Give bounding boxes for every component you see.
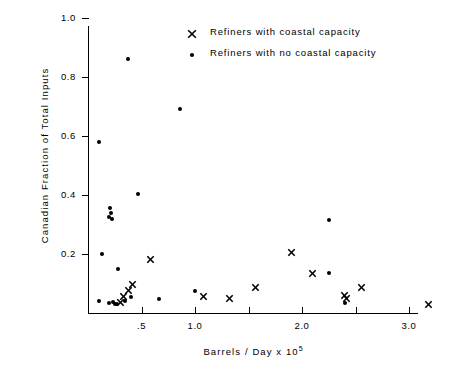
data-point-s1-14 xyxy=(115,302,119,306)
data-point-s0-7 xyxy=(251,283,260,292)
data-point-s1-9 xyxy=(116,267,120,271)
data-point-s1-5 xyxy=(109,211,113,215)
x-tick-label-2: 2.0 xyxy=(294,320,309,331)
data-point-s1-8 xyxy=(100,252,104,256)
y-tick-0 xyxy=(82,254,89,255)
y-tick-2 xyxy=(82,136,89,137)
x-tick-minor-1 xyxy=(356,307,357,314)
y-tick-4 xyxy=(82,18,89,19)
data-point-s1-17 xyxy=(157,297,161,301)
x-tick-label-1: 1.0 xyxy=(187,320,202,331)
y-axis-line xyxy=(88,26,89,314)
data-point-s1-20 xyxy=(327,271,331,275)
y-axis-title: Canadian Fraction of Total Inputs xyxy=(39,26,50,286)
legend-label-no-coastal: Refiners with no coastal capacity xyxy=(210,47,376,58)
x-marker-icon xyxy=(186,26,198,38)
data-point-s1-0 xyxy=(97,140,101,144)
data-point-s1-4 xyxy=(108,206,112,210)
data-point-s0-3 xyxy=(128,280,137,289)
y-tick-label-0: 0.2 xyxy=(30,248,76,259)
data-point-s0-6 xyxy=(225,294,234,303)
data-point-s1-7 xyxy=(110,217,114,221)
y-tick-label-3: 0.8 xyxy=(30,71,76,82)
dot-marker-icon xyxy=(186,47,198,59)
x-axis-line xyxy=(88,313,418,314)
x-tick-label-3: 3.0 xyxy=(401,320,416,331)
legend-label-coastal: Refiners with coastal capacity xyxy=(210,26,361,37)
data-point-s0-12 xyxy=(357,283,366,292)
y-tick-label-4: 1.0 xyxy=(30,12,76,23)
y-tick-1 xyxy=(82,195,89,196)
y-tick-3 xyxy=(82,77,89,78)
x-axis-title-text: Barrels / Day x 10 xyxy=(203,346,298,357)
data-point-s0-8 xyxy=(287,248,296,257)
x-axis-title: Barrels / Day x 105 xyxy=(88,345,418,357)
data-point-s0-4 xyxy=(146,255,155,264)
x-tick-label-0: .5 xyxy=(137,320,146,331)
y-tick-label-2: 0.6 xyxy=(30,130,76,141)
x-tick-2 xyxy=(302,307,303,314)
x-tick-3 xyxy=(409,307,410,314)
y-tick-label-1: 0.4 xyxy=(30,189,76,200)
data-point-s1-1 xyxy=(126,57,130,61)
data-point-s0-5 xyxy=(199,292,208,301)
x-axis-title-exponent: 5 xyxy=(299,345,303,352)
data-point-s1-19 xyxy=(327,218,331,222)
scatter-plot-figure: Canadian Fraction of Total Inputs Barrel… xyxy=(0,0,468,376)
data-point-s1-21 xyxy=(343,301,347,305)
data-point-s1-18 xyxy=(193,289,197,293)
data-point-s0-13 xyxy=(424,300,433,309)
data-point-s1-3 xyxy=(136,192,140,196)
data-point-s1-15 xyxy=(123,299,127,303)
data-point-s1-10 xyxy=(97,299,101,303)
x-tick-1 xyxy=(195,307,196,314)
x-tick-minor-0 xyxy=(249,307,250,314)
data-point-s1-2 xyxy=(178,107,182,111)
data-point-s0-9 xyxy=(308,269,317,278)
x-tick-0 xyxy=(142,307,143,314)
data-point-s1-16 xyxy=(129,295,133,299)
